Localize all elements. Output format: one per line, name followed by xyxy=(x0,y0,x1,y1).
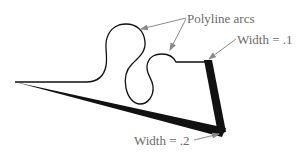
leader-width-top xyxy=(209,39,236,59)
label-width-bottom: Width = .2 xyxy=(134,134,190,147)
label-width-top: Width = .1 xyxy=(237,33,293,46)
leader-arcs-1 xyxy=(141,18,186,29)
polyline-width-01-segment xyxy=(204,60,226,134)
polyline-diagram xyxy=(0,0,300,154)
polyline-width-02-segment xyxy=(15,82,226,137)
label-polyline-arcs: Polyline arcs xyxy=(187,12,255,25)
leader-arcs-2 xyxy=(170,19,186,50)
leader-width-bottom xyxy=(194,134,219,140)
polyline-thin-segment xyxy=(15,24,208,104)
